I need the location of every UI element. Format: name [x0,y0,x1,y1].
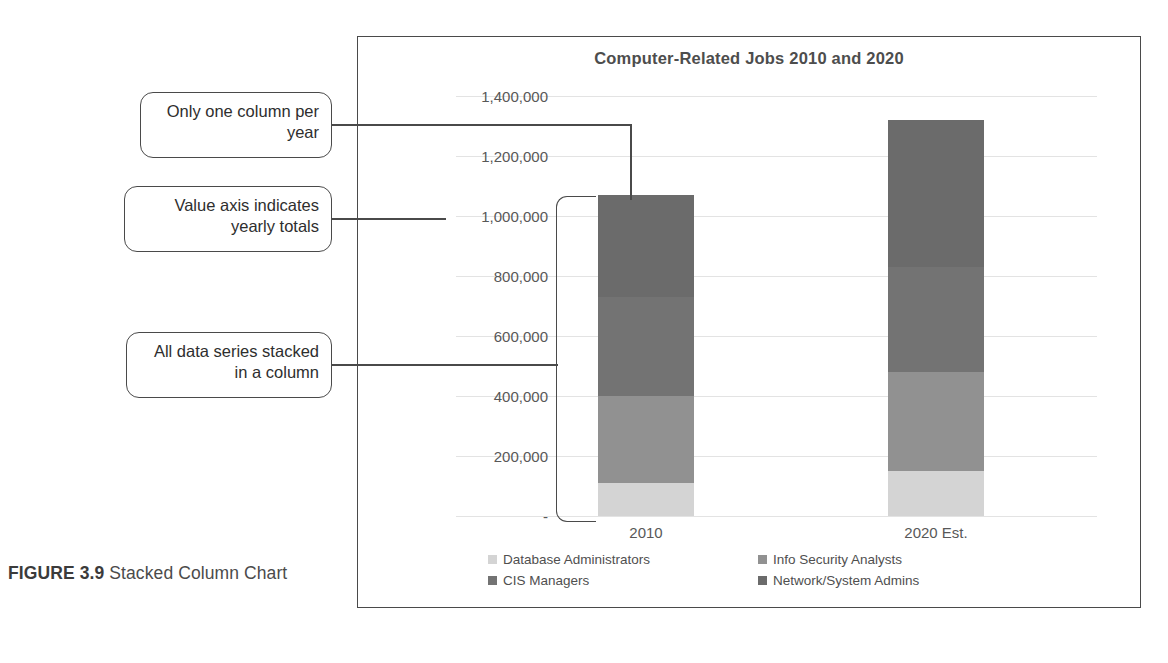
chart-title: Computer-Related Jobs 2010 and 2020 [358,49,1140,68]
chart-legend: Database AdministratorsInfo Security Ana… [488,549,1028,591]
callout-all-data-series-stacked: All data series stacked in a column [126,332,332,398]
legend-swatch-icon [758,576,767,585]
chart-frame: Computer-Related Jobs 2010 and 2020 -200… [357,36,1141,608]
bar-segment[interactable] [598,396,694,483]
leader-line-only-one-column-vertical [630,124,632,200]
gridline [456,336,1097,337]
bar-segment[interactable] [888,120,984,267]
gridline [456,516,1097,517]
leader-line-value-axis [332,218,446,220]
y-axis-tick-label: 1,000,000 [456,208,548,225]
y-axis-labels: -200,000400,000600,000800,0001,000,0001,… [448,96,548,516]
legend-label: CIS Managers [503,573,589,588]
figure-label: FIGURE 3.9 [8,563,104,583]
y-axis-tick-label: - [456,508,548,525]
gridline [456,156,1097,157]
y-axis-tick-label: 200,000 [456,448,548,465]
callout-value-axis: Value axis indicates yearly totals [124,186,332,252]
legend-item[interactable]: Network/System Admins [758,573,1028,588]
leader-line-only-one-column-horizontal [332,124,632,126]
legend-item[interactable]: Info Security Analysts [758,552,1028,567]
legend-label: Info Security Analysts [773,552,902,567]
bar-segment[interactable] [888,471,984,516]
legend-label: Database Administrators [503,552,650,567]
column-bracket [556,196,596,522]
legend-swatch-icon [488,555,497,564]
y-axis-tick-label: 1,400,000 [456,88,548,105]
bar-segment[interactable] [888,267,984,372]
bar-segment[interactable] [598,297,694,396]
figure-caption-text: Stacked Column Chart [109,563,287,583]
leader-line-stacked-series [332,364,558,366]
gridline [456,96,1097,97]
gridline [456,216,1097,217]
bar-column-2010[interactable] [598,195,694,516]
legend-swatch-icon [758,555,767,564]
legend-label: Network/System Admins [773,573,919,588]
y-axis-tick-label: 600,000 [456,328,548,345]
x-axis-label-2020: 2020 Est. [836,524,1036,541]
y-axis-tick-label: 800,000 [456,268,548,285]
legend-item[interactable]: Database Administrators [488,552,758,567]
bar-segment[interactable] [598,195,694,297]
gridline [456,276,1097,277]
gridline [456,456,1097,457]
gridline [456,396,1097,397]
y-axis-tick-label: 1,200,000 [456,148,548,165]
x-axis-label-2010: 2010 [546,524,746,541]
legend-swatch-icon [488,576,497,585]
bar-column-2020[interactable] [888,120,984,516]
bar-segment[interactable] [888,372,984,471]
y-axis-tick-label: 400,000 [456,388,548,405]
figure-caption: FIGURE 3.9 Stacked Column Chart [8,562,338,585]
plot-area: -200,000400,000600,000800,0001,000,0001,… [456,96,1097,516]
callout-only-one-column: Only one column per year [140,92,332,158]
legend-item[interactable]: CIS Managers [488,573,758,588]
bar-segment[interactable] [598,483,694,516]
